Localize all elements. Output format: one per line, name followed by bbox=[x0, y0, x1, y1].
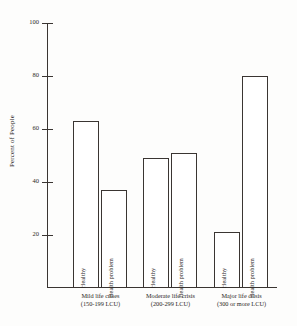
bar-moderate-healthy[interactable]: Healthy bbox=[143, 158, 169, 288]
y-axis-line bbox=[47, 23, 48, 288]
bar-mild-health-problem[interactable]: Health problem bbox=[101, 190, 127, 288]
group-caption-major: Major life crisis (300 or more LCU) bbox=[179, 292, 297, 309]
y-tick-100: 100 bbox=[42, 23, 53, 24]
y-tick-label-40: 40 bbox=[33, 177, 40, 184]
group-caption-major-line2: (300 or more LCU) bbox=[179, 300, 297, 308]
bar-major-healthy[interactable]: Healthy bbox=[214, 232, 240, 288]
bar-label-major-healthy: Healthy bbox=[220, 268, 227, 288]
y-tick-label-80: 80 bbox=[33, 71, 40, 78]
bar-label-mild-healthy: Healthy bbox=[79, 268, 86, 288]
y-tick-label-100: 100 bbox=[29, 18, 39, 25]
bar-mild-healthy[interactable]: Healthy bbox=[73, 121, 99, 288]
y-tick-20: 20 bbox=[42, 235, 53, 236]
bar-moderate-health-problem[interactable]: Health problem bbox=[171, 153, 197, 288]
bar-major-health-problem[interactable]: Health problem bbox=[242, 76, 268, 288]
y-tick-label-60: 60 bbox=[33, 124, 40, 131]
y-axis-title: Percent of People bbox=[8, 96, 16, 186]
bar-label-moderate-healthy: Healthy bbox=[149, 268, 156, 288]
y-tick-40: 40 bbox=[42, 182, 53, 183]
plot-area: 100 80 60 40 20 Healthy Health problem H… bbox=[47, 23, 277, 288]
group-caption-major-line1: Major life crisis bbox=[221, 292, 261, 299]
y-tick-label-20: 20 bbox=[33, 230, 40, 237]
y-tick-60: 60 bbox=[42, 129, 53, 130]
y-tick-80: 80 bbox=[42, 76, 53, 77]
bar-chart-figure: Percent of People 100 80 60 40 20 Health… bbox=[0, 0, 297, 326]
